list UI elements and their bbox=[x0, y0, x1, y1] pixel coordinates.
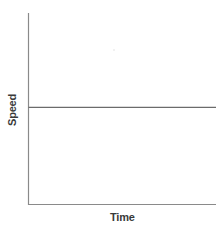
speed-time-chart bbox=[0, 0, 224, 232]
y-axis-label: Speed bbox=[7, 94, 18, 126]
x-axis-label: Time bbox=[110, 212, 134, 223]
artifact-dot bbox=[113, 49, 114, 50]
